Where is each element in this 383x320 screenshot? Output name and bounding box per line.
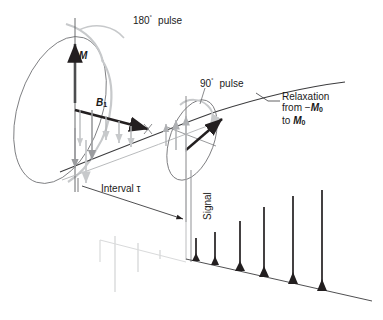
signal-peak [211,232,219,265]
signal-peak [235,221,245,271]
degree-symbol-180: ˚ [150,15,153,22]
figure-canvas [0,0,383,320]
relaxation-m0-a-sub: 0 [319,106,323,113]
relaxation-m0-b-sub: 0 [301,120,305,127]
relaxation-line-3: to M0 [282,115,329,128]
degree-symbol-90: ˚ [211,78,214,85]
pulse-180-rotation-arc [79,26,124,38]
signal-peak [259,207,269,277]
signal-baseline [186,259,372,301]
ellipse-90 [157,93,227,187]
label-90-pulse: 90˚ pulse [200,76,243,89]
b1-subscript: 1 [103,101,107,108]
label-180-pulse: 180˚ pulse [133,13,182,26]
b1-vector [75,110,148,129]
label-b1-vector: B1 [96,97,107,110]
nmr-inversion-recovery-figure: 180˚ pulse 90˚ pulse M B1 Interval τ Sig… [0,0,383,320]
label-signal: Signal [202,192,213,220]
label-relaxation: Relaxation from −M0 to M0 [282,91,329,129]
signal-plot-group [186,190,372,301]
relaxation-line-2: from −M0 [282,102,329,115]
faded-signal-group [100,236,186,292]
faded-baseline [100,240,186,262]
relaxation-line-1: Relaxation [282,91,329,102]
signal-peak [192,238,200,261]
recovery-gray-arrows [166,116,186,152]
label-interval: Interval τ [101,183,141,194]
cone-90-group [157,93,227,187]
signal-peak [288,196,298,284]
label-m-vector: M [79,50,87,61]
signal-peak [317,190,327,291]
relaxation-m0-a: M [311,102,319,113]
